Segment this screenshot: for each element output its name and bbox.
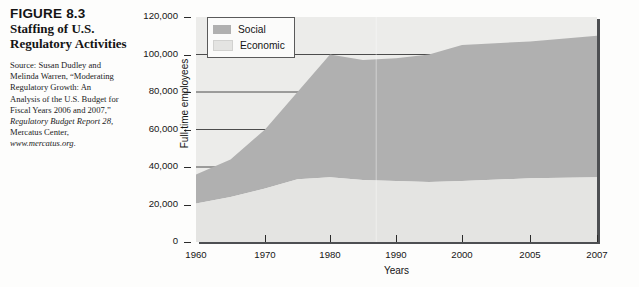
legend-swatch-economic (213, 40, 233, 51)
x-axis-tick-mark (330, 235, 331, 242)
legend-label-social: Social (238, 24, 266, 35)
source-line-3: Regulatory Growth: An (10, 82, 91, 92)
figure-number: FIGURE 8.3 (10, 6, 138, 21)
legend-swatch-social (213, 25, 231, 34)
source-line-5: Fiscal Years 2006 and 2007,” (10, 105, 111, 115)
x-axis-tick-mark (396, 235, 397, 242)
figure-caption-column: FIGURE 8.3 Staffing of U.S. Regulatory A… (10, 6, 138, 150)
source-line-4: Analysis of the U.S. Budget for (10, 94, 119, 104)
x-axis-tick-mark (597, 235, 598, 242)
figure-page: FIGURE 8.3 Staffing of U.S. Regulatory A… (0, 0, 639, 287)
x-axis-tick-label: 2007 (574, 249, 620, 260)
x-axis-tick-mark (265, 235, 266, 242)
figure-source: Source: Susan Dudley and Melinda Warren,… (10, 60, 134, 150)
y-axis-tick-label: 120,000 (124, 11, 178, 21)
legend-label-economic: Economic (240, 40, 285, 51)
y-axis-tick-label: 0 (124, 236, 178, 246)
y-axis-tick-mark (184, 205, 191, 206)
source-line-1: Source: Susan Dudley and (10, 60, 101, 70)
y-axis-tick-mark (184, 242, 191, 243)
legend-item-economic: Economic (213, 37, 285, 53)
legend-item-social: Social (213, 21, 285, 37)
y-axis-tick-label: 60,000 (124, 124, 178, 134)
chart-legend: Social Economic (207, 17, 295, 58)
x-axis-tick-label: 2005 (507, 249, 553, 260)
x-axis-tick-label: 2000 (439, 249, 485, 260)
y-axis-tick-label: 80,000 (124, 86, 178, 96)
y-axis-label: Full-time employees (179, 34, 190, 174)
source-line-6: Mercatus Center, (10, 127, 69, 137)
y-axis-tick-label: 100,000 (124, 49, 178, 59)
chart: 020,00040,00060,00080,000100,000120,000 … (144, 2, 636, 284)
y-axis-tick-mark (184, 17, 191, 18)
source-line-2: Melinda Warren, “Moderating (10, 71, 114, 81)
source-report-title: Regulatory Budget Report 28, (10, 116, 113, 126)
x-axis-tick-mark (462, 235, 463, 242)
figure-title: Staffing of U.S. Regulatory Activities (10, 22, 130, 51)
x-axis-tick-label: 1970 (242, 249, 288, 260)
source-url: www.mercatus.org. (10, 138, 76, 148)
x-axis-tick-mark (530, 235, 531, 242)
x-axis-tick-label: 1990 (373, 249, 419, 260)
x-axis-tick-label: 1980 (307, 249, 353, 260)
x-axis-label: Years (196, 265, 597, 276)
y-axis-tick-label: 20,000 (124, 199, 178, 209)
y-axis-tick-label: 40,000 (124, 161, 178, 171)
x-axis-tick-label: 1960 (173, 249, 219, 260)
